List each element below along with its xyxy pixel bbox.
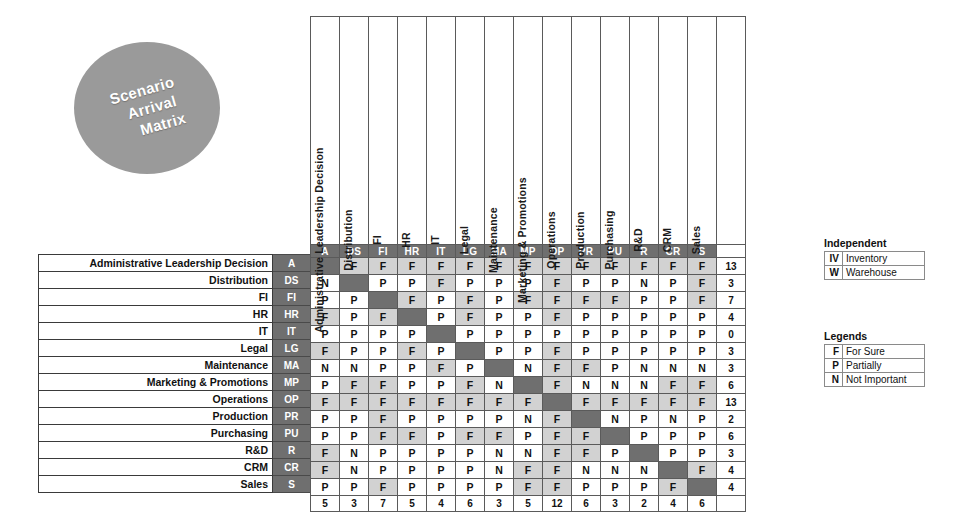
row-label-code-ma: MA xyxy=(273,357,311,374)
matrix-cell-ds-lg: P xyxy=(456,275,485,292)
matrix-cell-cr-ma: N xyxy=(485,462,514,479)
matrix-cell-ma-ds: N xyxy=(340,360,369,377)
matrix-cell-it-fi: P xyxy=(369,326,398,343)
matrix-cell-r-ma: N xyxy=(485,445,514,462)
matrix-row-total-ds: 3 xyxy=(717,275,746,292)
matrix-col-total-it: 4 xyxy=(427,496,456,512)
scenario-arrival-matrix-title-circle: Scenario Arrival Matrix xyxy=(74,42,220,174)
matrix-row-op: FFFFFFFFFFFFF13 xyxy=(311,394,746,411)
matrix-col-header-fi: FI xyxy=(369,17,398,245)
matrix-row-total-hr: 4 xyxy=(717,309,746,326)
matrix-col-header-hr: HR xyxy=(398,17,427,245)
matrix-cell-mp-s: F xyxy=(688,377,717,394)
matrix-cell-ma-pr: F xyxy=(572,360,601,377)
matrix-cell-pu-op: F xyxy=(543,428,572,445)
matrix-sum-row-spacer xyxy=(717,496,746,512)
matrix-cell-pr-pu: N xyxy=(601,411,630,428)
matrix-cell-it-s: P xyxy=(688,326,717,343)
matrix-cell-mp-hr: P xyxy=(398,377,427,394)
matrix-cell-pu-r: P xyxy=(630,428,659,445)
row-label-row: ITIT xyxy=(39,323,311,340)
row-label-name-op: Operations xyxy=(39,391,273,408)
matrix-cell-s-op: F xyxy=(543,479,572,496)
matrix-cell-fi-lg: F xyxy=(456,292,485,309)
matrix-cell-diagonal xyxy=(630,445,659,462)
matrix-cell-s-hr: P xyxy=(398,479,427,496)
matrix-cell-ma-mp: N xyxy=(514,360,543,377)
matrix-cell-s-r: P xyxy=(630,479,659,496)
matrix-cell-s-a: P xyxy=(311,479,340,496)
matrix-cell-hr-pu: P xyxy=(601,309,630,326)
matrix-cell-ma-cr: N xyxy=(659,360,688,377)
row-label-row: CRMCR xyxy=(39,459,311,476)
matrix-row-total-r: 3 xyxy=(717,445,746,462)
matrix-cell-diagonal xyxy=(398,309,427,326)
matrix-cell-fi-s: F xyxy=(688,292,717,309)
matrix-cell-pu-mp: P xyxy=(514,428,543,445)
matrix-cell-fi-it: P xyxy=(427,292,456,309)
matrix-cell-ma-s: N xyxy=(688,360,717,377)
matrix-cell-lg-r: P xyxy=(630,343,659,360)
matrix-col-total-op: 12 xyxy=(543,496,572,512)
matrix-col-total-r: 2 xyxy=(630,496,659,512)
matrix-cell-ds-ma: P xyxy=(485,275,514,292)
matrix-cell-lg-ma: P xyxy=(485,343,514,360)
matrix-cell-mp-a: P xyxy=(311,377,340,394)
matrix-cell-lg-fi: P xyxy=(369,343,398,360)
matrix-cell-op-it: F xyxy=(427,394,456,411)
matrix-cell-fi-hr: F xyxy=(398,292,427,309)
row-label-row: LegalLG xyxy=(39,340,311,357)
matrix-col-total-ma: 3 xyxy=(485,496,514,512)
matrix-cell-mp-lg: F xyxy=(456,377,485,394)
matrix-row-ds: NPPFPPPFPPNPF3 xyxy=(311,275,746,292)
matrix-row-total-mp: 6 xyxy=(717,377,746,394)
legends-legend-item-key: P xyxy=(825,359,843,373)
matrix-cell-cr-op: F xyxy=(543,462,572,479)
matrix-cell-lg-ds: P xyxy=(340,343,369,360)
row-label-row: MaintenanceMA xyxy=(39,357,311,374)
legends-legend-item-row: NNot Important xyxy=(825,373,925,387)
matrix-col-total-pu: 3 xyxy=(601,496,630,512)
matrix-cell-fi-pu: F xyxy=(601,292,630,309)
legends-legend: Legends FFor SurePPartiallyNNot Importan… xyxy=(824,330,925,387)
matrix-cell-pr-it: P xyxy=(427,411,456,428)
matrix-cell-mp-pu: N xyxy=(601,377,630,394)
matrix-cell-lg-it: P xyxy=(427,343,456,360)
matrix-cell-s-pr: P xyxy=(572,479,601,496)
matrix-row-r: FNPPPPNNFFPPP3 xyxy=(311,445,746,462)
matrix-cell-pu-ds: P xyxy=(340,428,369,445)
matrix-col-code-fi: FI xyxy=(369,245,398,258)
row-label-name-pr: Production xyxy=(39,408,273,425)
matrix-col-header-pr: Production xyxy=(572,17,601,245)
independent-legend-item-key: W xyxy=(825,266,843,280)
matrix-cell-hr-s: P xyxy=(688,309,717,326)
matrix-row-mp: PFFPPFNFNNNFF6 xyxy=(311,377,746,394)
matrix-cell-s-pu: P xyxy=(601,479,630,496)
matrix-cell-pr-mp: N xyxy=(514,411,543,428)
independent-legend-table: IVInventoryWWarehouse xyxy=(824,251,925,280)
matrix-col-header-r: R&D xyxy=(630,17,659,245)
matrix-col-header-label: Administrative Leadership Decision xyxy=(313,147,325,332)
matrix-cell-hr-ds: P xyxy=(340,309,369,326)
matrix-cell-cr-ds: N xyxy=(340,462,369,479)
matrix-cell-it-lg: P xyxy=(456,326,485,343)
matrix-col-header-label: Purchasing xyxy=(603,210,615,269)
matrix-cell-ds-pr: P xyxy=(572,275,601,292)
matrix-cell-hr-fi: F xyxy=(369,309,398,326)
matrix-cell-mp-pr: N xyxy=(572,377,601,394)
matrix-cell-op-lg: F xyxy=(456,394,485,411)
matrix-cell-pu-lg: F xyxy=(456,428,485,445)
matrix-cell-mp-r: N xyxy=(630,377,659,394)
matrix-cell-pr-ds: P xyxy=(340,411,369,428)
row-label-code-pr: PR xyxy=(273,408,311,425)
matrix-cell-op-s: F xyxy=(688,394,717,411)
matrix-cell-diagonal xyxy=(688,479,717,496)
row-label-code-r: R xyxy=(273,442,311,459)
matrix-cell-mp-ds: F xyxy=(340,377,369,394)
matrix-cell-r-pr: F xyxy=(572,445,601,462)
matrix-cell-mp-fi: F xyxy=(369,377,398,394)
legends-legend-item-row: PPartially xyxy=(825,359,925,373)
matrix-row-s: PPFPPPPFFPPPF4 xyxy=(311,479,746,496)
row-label-row: Marketing & PromotionsMP xyxy=(39,374,311,391)
matrix-cell-a-s: F xyxy=(688,258,717,275)
